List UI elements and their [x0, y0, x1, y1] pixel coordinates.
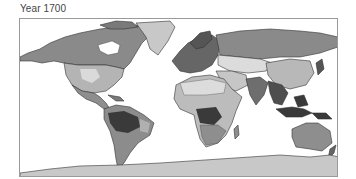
region-arctic-islands — [100, 21, 138, 29]
region-australia — [292, 123, 332, 151]
region-india — [246, 77, 268, 105]
region-new-guinea — [312, 113, 332, 119]
region-antarctica — [20, 155, 338, 177]
region-siberia — [216, 29, 338, 59]
region-japan — [316, 59, 324, 75]
world-map — [19, 18, 338, 177]
map-title: Year 1700 — [20, 3, 66, 14]
region-borneo — [294, 95, 308, 107]
world-map-graphic — [20, 19, 338, 177]
region-caribbean — [108, 95, 124, 101]
region-madagascar — [234, 125, 239, 139]
region-indonesia — [276, 107, 312, 117]
region-canada — [20, 25, 150, 69]
